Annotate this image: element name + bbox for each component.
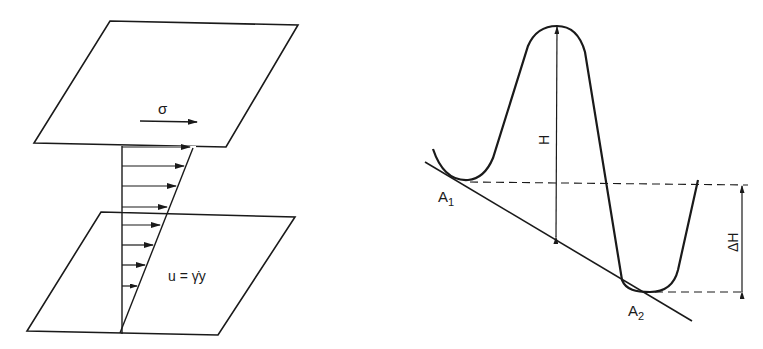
dashed-level-a1 (470, 182, 748, 185)
stress-arrow (140, 121, 197, 122)
barrier-label: H (536, 135, 552, 145)
tangent-line (425, 162, 692, 321)
stress-label: σ (158, 100, 168, 117)
profile-mask (121, 146, 196, 212)
top-plate (34, 21, 298, 147)
state-a1-label: A1 (438, 188, 454, 208)
energy-difference-label: ΔH (725, 233, 741, 252)
energy-curve (433, 26, 698, 292)
velocity-equation: u = γ̇y (168, 268, 206, 284)
diagram-canvas: σ u = γ̇y H ΔH A1 A2 (0, 0, 763, 349)
state-a2-label: A2 (628, 302, 644, 322)
shear-flow-diagram: σ u = γ̇y (27, 21, 298, 335)
energy-diagram: H ΔH A1 A2 (425, 26, 748, 322)
barrier-height-arrow (556, 27, 557, 237)
